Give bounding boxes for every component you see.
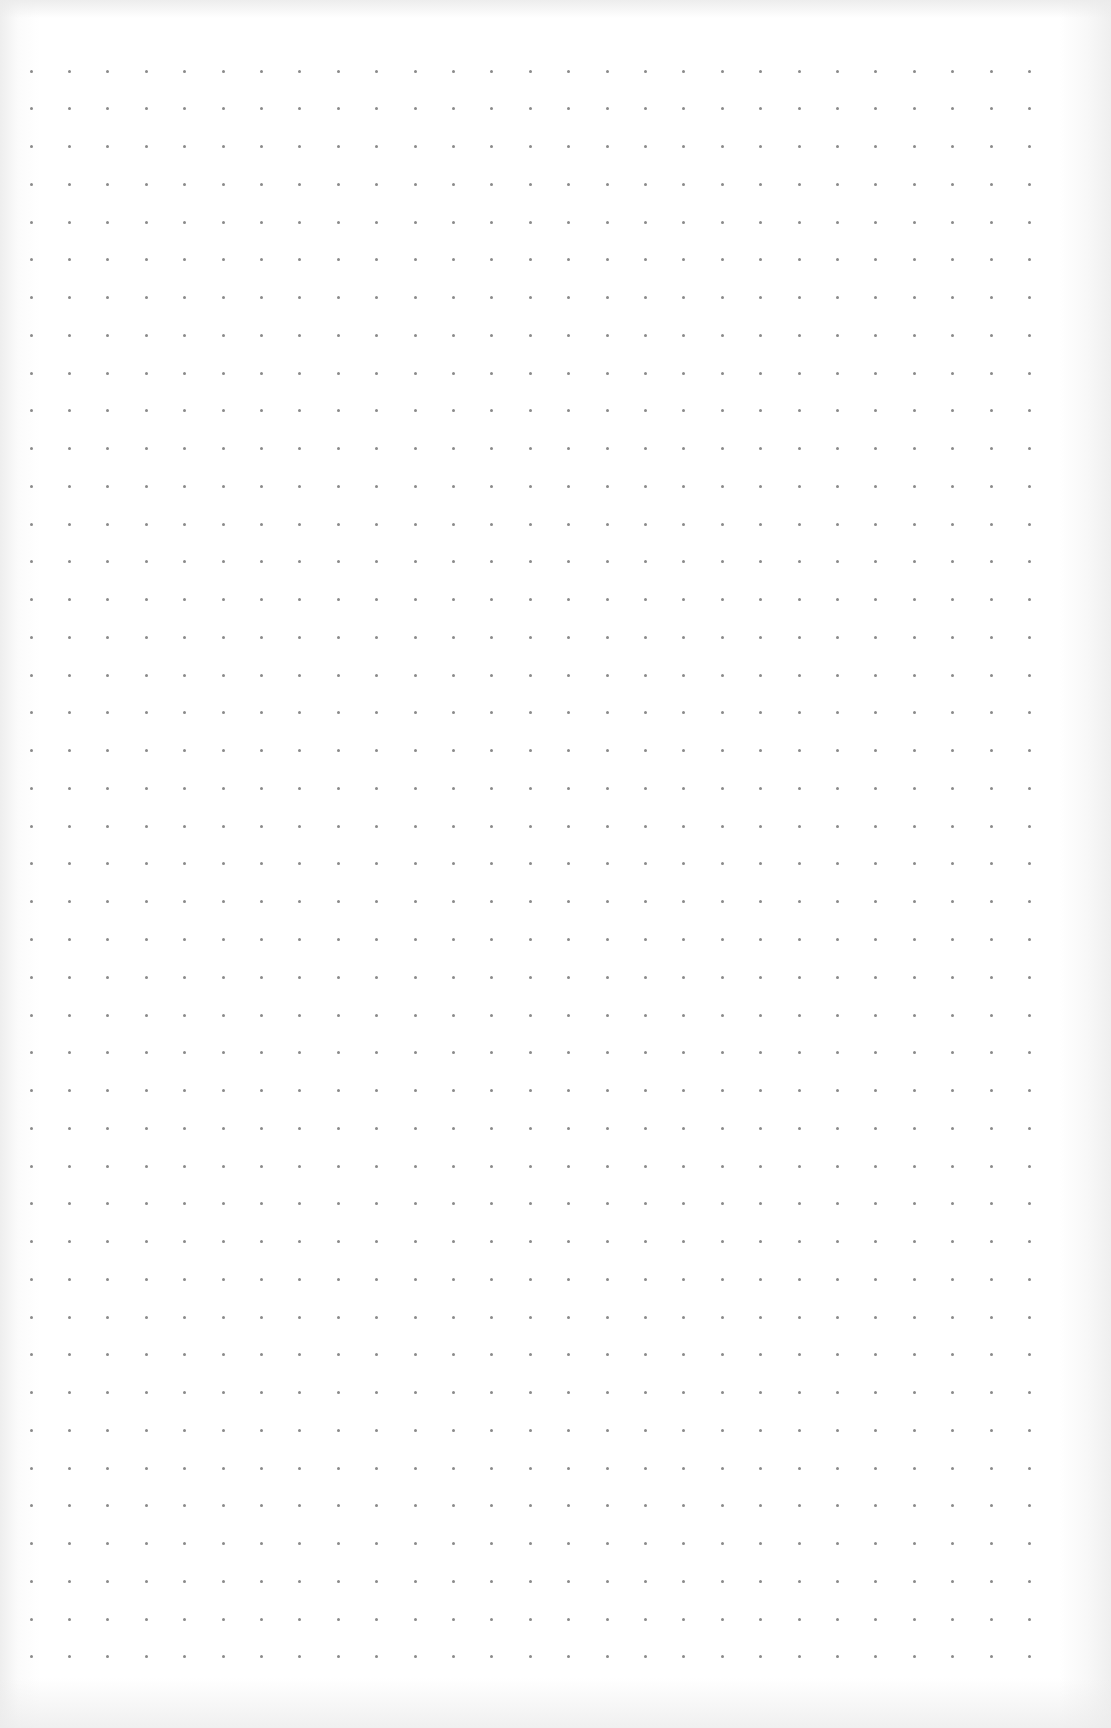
grid-dot <box>836 258 839 261</box>
grid-dot <box>298 258 301 261</box>
grid-dot <box>798 1353 801 1356</box>
grid-dot <box>529 900 532 903</box>
grid-dot <box>337 1353 340 1356</box>
grid-dot <box>606 825 609 828</box>
grid-dot <box>759 70 762 73</box>
grid-dot <box>106 523 109 526</box>
grid-dot <box>68 825 71 828</box>
grid-dot <box>759 1618 762 1621</box>
grid-dot <box>414 1542 417 1545</box>
grid-dot <box>990 1467 993 1470</box>
grid-dot <box>222 1504 225 1507</box>
grid-dot <box>490 1618 493 1621</box>
grid-dot <box>913 598 916 601</box>
grid-dot <box>567 674 570 677</box>
grid-dot <box>874 598 877 601</box>
grid-dot <box>375 938 378 941</box>
grid-dot <box>874 1165 877 1168</box>
grid-dot <box>106 1467 109 1470</box>
grid-dot <box>414 598 417 601</box>
grid-dot <box>682 1580 685 1583</box>
grid-dot <box>337 787 340 790</box>
grid-dot <box>721 183 724 186</box>
grid-dot <box>183 1202 186 1205</box>
grid-dot <box>337 1202 340 1205</box>
grid-dot <box>913 1089 916 1092</box>
grid-dot <box>951 1202 954 1205</box>
grid-dot <box>913 145 916 148</box>
grid-dot <box>30 409 33 412</box>
grid-dot <box>836 1202 839 1205</box>
grid-dot <box>106 1240 109 1243</box>
grid-dot <box>682 1504 685 1507</box>
grid-dot <box>874 447 877 450</box>
grid-dot <box>759 409 762 412</box>
grid-dot <box>721 1051 724 1054</box>
grid-dot <box>606 523 609 526</box>
grid-dot <box>183 1165 186 1168</box>
grid-dot <box>452 523 455 526</box>
grid-dot <box>644 1429 647 1432</box>
grid-dot <box>874 560 877 563</box>
grid-dot <box>606 409 609 412</box>
grid-dot <box>106 334 109 337</box>
grid-dot <box>145 1089 148 1092</box>
grid-dot <box>990 183 993 186</box>
grid-dot <box>68 447 71 450</box>
grid-dot <box>913 523 916 526</box>
grid-dot <box>913 1127 916 1130</box>
grid-dot <box>759 1014 762 1017</box>
grid-dot <box>222 1202 225 1205</box>
grid-dot <box>913 900 916 903</box>
grid-dot <box>759 938 762 941</box>
grid-dot <box>798 1316 801 1319</box>
grid-dot <box>1028 183 1031 186</box>
grid-dot <box>106 1618 109 1621</box>
grid-dot <box>836 1353 839 1356</box>
grid-dot <box>798 1089 801 1092</box>
grid-dot <box>68 258 71 261</box>
grid-dot <box>145 107 148 110</box>
grid-dot <box>529 145 532 148</box>
grid-dot <box>298 1391 301 1394</box>
grid-dot <box>951 258 954 261</box>
grid-dot <box>260 1165 263 1168</box>
grid-dot <box>68 1429 71 1432</box>
grid-dot <box>337 598 340 601</box>
grid-dot <box>1028 1467 1031 1470</box>
grid-dot <box>874 1618 877 1621</box>
grid-dot <box>951 70 954 73</box>
grid-dot <box>874 787 877 790</box>
grid-dot <box>990 787 993 790</box>
grid-dot <box>375 523 378 526</box>
grid-dot <box>529 221 532 224</box>
grid-dot <box>606 749 609 752</box>
grid-dot <box>721 976 724 979</box>
grid-dot <box>874 862 877 865</box>
grid-dot <box>337 1504 340 1507</box>
grid-dot <box>183 258 186 261</box>
grid-dot <box>606 1504 609 1507</box>
grid-dot <box>452 900 455 903</box>
grid-dot <box>452 1618 455 1621</box>
grid-dot <box>490 1051 493 1054</box>
grid-dot <box>721 749 724 752</box>
grid-dot <box>721 1655 724 1658</box>
grid-dot <box>222 107 225 110</box>
grid-dot <box>30 183 33 186</box>
grid-dot <box>106 938 109 941</box>
grid-dot <box>414 636 417 639</box>
grid-dot <box>606 1580 609 1583</box>
grid-dot <box>913 636 916 639</box>
grid-dot <box>337 372 340 375</box>
grid-dot <box>145 862 148 865</box>
grid-dot <box>606 1655 609 1658</box>
grid-dot <box>721 447 724 450</box>
grid-dot <box>951 1542 954 1545</box>
grid-dot <box>375 1051 378 1054</box>
grid-dot <box>567 787 570 790</box>
grid-dot <box>375 1278 378 1281</box>
grid-dot <box>644 1089 647 1092</box>
grid-dot <box>759 1391 762 1394</box>
grid-dot <box>260 560 263 563</box>
